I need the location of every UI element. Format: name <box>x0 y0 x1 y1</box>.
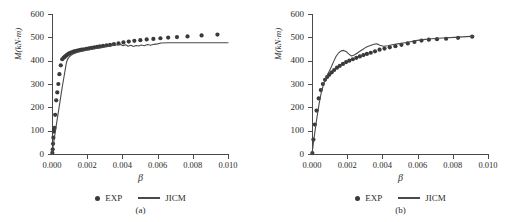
legend-label-jicm: JICM <box>165 193 186 203</box>
data-point <box>456 36 460 40</box>
y-axis-tick-label: 0 <box>260 150 304 159</box>
y-axis-tick <box>308 61 313 62</box>
data-point <box>369 51 373 55</box>
y-axis-tick <box>48 84 53 85</box>
y-axis-tick-label: 200 <box>0 103 44 112</box>
y-axis-tick <box>48 14 53 15</box>
data-point <box>132 39 136 43</box>
data-point <box>185 34 189 38</box>
x-axis-tick <box>228 154 229 159</box>
jicm-line-icon <box>138 197 160 198</box>
panel-caption-a: (a) <box>52 205 229 215</box>
data-point <box>373 49 377 53</box>
x-axis-tick-label: 0.006 <box>138 161 178 170</box>
data-point <box>175 35 179 39</box>
data-point <box>145 37 149 41</box>
x-axis-tick-label: 0.008 <box>433 161 473 170</box>
jicm-line-icon <box>398 197 420 198</box>
x-axis-label: β <box>312 172 489 183</box>
chart-panel-a: M(kN·m) β EXP JICM (a) 01002003004005006… <box>0 0 260 222</box>
legend-label-exp: EXP <box>105 193 122 203</box>
y-axis-tick <box>308 154 313 155</box>
data-point <box>435 37 439 41</box>
y-axis-tick <box>48 154 53 155</box>
data-point <box>215 32 219 36</box>
data-point <box>166 35 170 39</box>
x-axis-tick <box>418 154 419 159</box>
x-axis-tick <box>488 154 489 159</box>
y-axis-tick <box>308 84 313 85</box>
x-axis-tick <box>382 154 383 159</box>
y-axis-tick-label: 500 <box>0 33 44 42</box>
data-point <box>127 39 131 43</box>
chart-panel-b: M(kN·m) β EXP JICM (b) 01002003004005006… <box>260 0 520 222</box>
x-axis-tick-label: 0.006 <box>398 161 438 170</box>
y-axis-tick-label: 400 <box>0 56 44 65</box>
legend-item-exp: EXP <box>355 193 382 203</box>
data-point <box>57 72 61 76</box>
data-point <box>56 82 60 86</box>
y-axis-tick-label: 300 <box>260 80 304 89</box>
series-line-jicm <box>312 36 474 154</box>
y-axis-tick-label: 100 <box>0 126 44 135</box>
x-axis-tick-label: 0.010 <box>468 161 508 170</box>
y-axis-tick-label: 0 <box>0 150 44 159</box>
series-points-exp <box>50 32 219 154</box>
data-point <box>55 90 59 94</box>
data-point <box>365 52 369 56</box>
x-axis-line <box>52 154 229 155</box>
data-point <box>54 98 58 102</box>
series-points-exp <box>310 35 474 156</box>
exp-marker-icon <box>355 196 360 201</box>
x-axis-tick <box>193 154 194 159</box>
data-point <box>200 33 204 37</box>
y-axis-tick-label: 600 <box>260 10 304 19</box>
figure-container: M(kN·m) β EXP JICM (a) 01002003004005006… <box>0 0 520 222</box>
x-axis-tick-label: 0.004 <box>102 161 142 170</box>
legend-b: EXP JICM <box>312 193 489 203</box>
y-axis-tick <box>48 37 53 38</box>
y-axis-tick <box>308 131 313 132</box>
x-axis-tick <box>347 154 348 159</box>
y-axis-tick-label: 500 <box>260 33 304 42</box>
panel-caption-b: (b) <box>312 205 489 215</box>
y-axis-tick-label: 300 <box>0 80 44 89</box>
x-axis-tick-label: 0.002 <box>327 161 367 170</box>
legend-item-jicm: JICM <box>138 193 186 203</box>
data-point <box>138 38 142 42</box>
x-axis-tick <box>453 154 454 159</box>
y-axis-tick <box>308 14 313 15</box>
y-axis-tick-label: 200 <box>260 103 304 112</box>
x-axis-label: β <box>52 172 229 183</box>
data-point <box>377 48 381 52</box>
y-axis-tick <box>48 131 53 132</box>
x-axis-tick-label: 0.010 <box>208 161 248 170</box>
legend-label-exp: EXP <box>365 193 382 203</box>
chart-svg-b <box>312 14 488 154</box>
x-axis-tick <box>158 154 159 159</box>
legend-item-jicm: JICM <box>398 193 446 203</box>
plot-area-b <box>312 14 488 154</box>
legend-item-exp: EXP <box>95 193 122 203</box>
y-axis-tick-label: 400 <box>260 56 304 65</box>
data-point <box>59 63 63 67</box>
x-axis-tick <box>122 154 123 159</box>
legend-label-jicm: JICM <box>425 193 446 203</box>
legend-a: EXP JICM <box>52 193 229 203</box>
x-axis-line <box>312 154 489 155</box>
x-axis-tick-label: 0.000 <box>32 161 72 170</box>
y-axis-tick <box>308 107 313 108</box>
data-point <box>53 113 57 117</box>
data-point <box>151 37 155 41</box>
x-axis-tick-label: 0.002 <box>67 161 107 170</box>
y-axis-tick-label: 600 <box>0 10 44 19</box>
data-point <box>121 40 125 44</box>
y-axis-tick <box>48 107 53 108</box>
y-axis-tick-label: 100 <box>260 126 304 135</box>
chart-svg-a <box>52 14 228 154</box>
plot-area-a <box>52 14 228 154</box>
series-line-jicm <box>52 43 228 154</box>
data-point <box>158 36 162 40</box>
x-axis-tick-label: 0.000 <box>292 161 332 170</box>
x-axis-tick <box>87 154 88 159</box>
